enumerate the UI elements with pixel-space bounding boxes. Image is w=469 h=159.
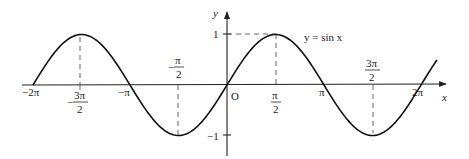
- x-tick-label-negpi-over-2: − π 2: [168, 54, 184, 80]
- svg-text:−: −: [67, 96, 73, 108]
- x-axis-label: x: [441, 91, 447, 103]
- svg-text:2: 2: [369, 71, 375, 83]
- svg-text:3π: 3π: [74, 89, 86, 101]
- svg-text:π: π: [175, 54, 181, 66]
- x-axis: [22, 84, 446, 85]
- x-tick-label-negpi: −π: [118, 86, 130, 98]
- svg-text:π: π: [272, 89, 278, 101]
- svg-text:3π: 3π: [366, 57, 378, 69]
- y-axis-label: y: [212, 7, 218, 19]
- y-tick-label-1: 1: [213, 28, 219, 40]
- x-tick-label-neg3pi-over-2: − 3π 2: [67, 89, 88, 115]
- x-tick-label-pi-over-2: π 2: [271, 89, 281, 115]
- x-tick-label-neg2pi: −2π: [22, 86, 40, 98]
- origin-label: O: [231, 90, 239, 102]
- curve-label: y = sin x: [304, 31, 343, 43]
- svg-text:2: 2: [77, 103, 83, 115]
- x-tick-label-3pi-over-2: 3π 2: [365, 57, 380, 83]
- sine-graph: y x O 1 −1 y = sin x −2π −π π 2π − 3π 2 …: [0, 0, 469, 159]
- x-tick-label-pi: π: [319, 86, 325, 98]
- x-tick-label-2pi: 2π: [412, 86, 424, 98]
- svg-text:−: −: [168, 61, 174, 73]
- y-tick-label-neg1: −1: [207, 130, 219, 142]
- svg-text:2: 2: [176, 68, 182, 80]
- svg-text:2: 2: [273, 103, 279, 115]
